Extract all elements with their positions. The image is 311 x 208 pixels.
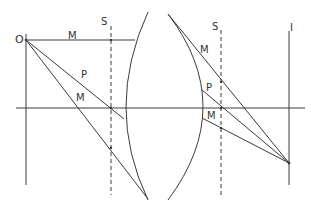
lens-diagram bbox=[0, 0, 311, 208]
lens-surface-right bbox=[168, 14, 203, 200]
ray-m2-refracted bbox=[202, 118, 289, 163]
ray-p-incident bbox=[26, 40, 124, 119]
ray-m2-right-label: M bbox=[207, 111, 216, 121]
ray-p-right-label: P bbox=[206, 83, 212, 93]
plane-right-label: S bbox=[212, 22, 218, 32]
ray-m-refracted bbox=[168, 14, 289, 163]
ray-p-refracted bbox=[202, 90, 289, 163]
ray-m2-incident bbox=[26, 40, 148, 199]
image-label: I bbox=[290, 23, 293, 33]
ray-p-label: P bbox=[81, 70, 87, 80]
ray-m-right-label: M bbox=[200, 45, 209, 55]
object-label: O bbox=[15, 34, 24, 45]
plane-left-label: S bbox=[101, 17, 107, 27]
ray-m2-label: M bbox=[76, 93, 85, 103]
ray-m-label: M bbox=[68, 31, 77, 41]
